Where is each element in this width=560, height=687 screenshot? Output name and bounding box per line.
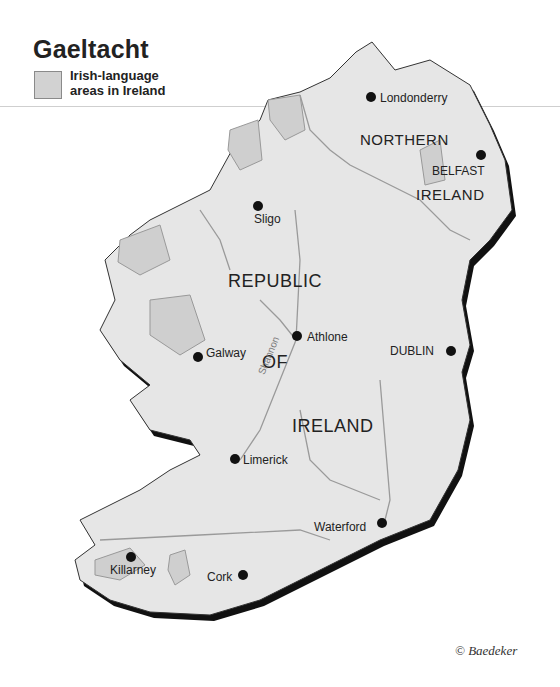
label-northern: NORTHERN [360,131,449,148]
city-label-limerick: Limerick [243,453,288,467]
ireland-map [0,0,560,687]
city-marker-belfast [476,150,486,160]
city-marker-killarney [126,552,136,562]
city-marker-waterford [377,518,387,528]
city-marker-galway [193,352,203,362]
city-label-sligo: Sligo [254,212,281,226]
city-label-londonderry: Londonderry [380,91,447,105]
label-northern-ireland: IRELAND [416,186,485,203]
label-ireland: IRELAND [292,416,374,437]
city-marker-limerick [230,454,240,464]
city-marker-dublin [446,346,456,356]
city-label-waterford: Waterford [314,520,366,534]
city-label-galway: Galway [206,346,246,360]
credit-baedeker: © Baedeker [455,643,517,659]
city-label-dublin: DUBLIN [390,344,434,358]
city-label-athlone: Athlone [307,330,348,344]
city-marker-londonderry [366,92,376,102]
city-marker-cork [238,570,248,580]
city-marker-sligo [253,201,263,211]
city-marker-athlone [292,331,302,341]
city-label-killarney: Killarney [110,563,156,577]
city-label-belfast: BELFAST [432,164,485,178]
city-label-cork: Cork [207,570,232,584]
label-republic: REPUBLIC [228,271,322,292]
